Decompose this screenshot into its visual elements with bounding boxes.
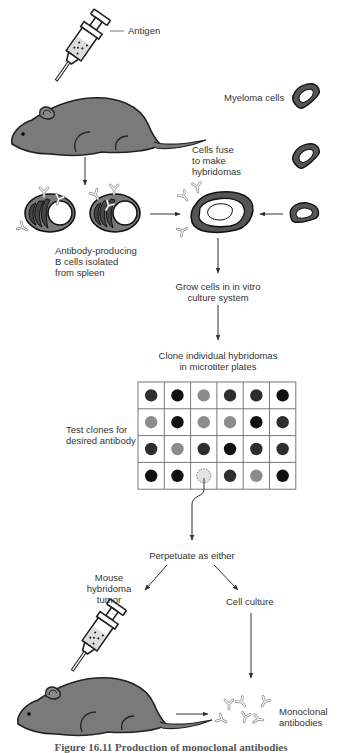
- myeloma-cell-icon: [286, 195, 322, 231]
- well: [276, 416, 288, 428]
- well: [224, 443, 236, 455]
- well: [145, 470, 157, 482]
- well: [250, 416, 262, 428]
- well: [198, 389, 210, 401]
- syringe-icon: [47, 8, 111, 86]
- perpetuate-label: Perpetuate as either: [140, 550, 244, 561]
- myeloma-cell-icon: [291, 81, 320, 111]
- well: [276, 389, 288, 401]
- monoclonal-antibodies-icon: [216, 696, 270, 725]
- well: [171, 470, 183, 482]
- arrow-down-left: [145, 565, 167, 590]
- arrow-down-right: [214, 565, 238, 590]
- well: [198, 416, 210, 428]
- myeloma-label: Myeloma cells: [224, 92, 284, 103]
- well: [250, 389, 262, 401]
- well: [171, 443, 183, 455]
- syringe-icon: [63, 598, 127, 676]
- microtiter-plate: [138, 382, 296, 489]
- well: [224, 470, 236, 482]
- well: [171, 416, 183, 428]
- well: [224, 389, 236, 401]
- cell-culture-label: Cell culture: [226, 596, 274, 607]
- grow-label: Grow cells in in vitro culture system: [168, 281, 268, 303]
- well: [250, 443, 262, 455]
- well: [145, 443, 157, 455]
- well: [224, 416, 236, 428]
- fuse-label: Cells fuse to make hybridomas: [192, 144, 241, 177]
- well: [145, 389, 157, 401]
- well: [250, 470, 262, 482]
- myeloma-cell-icon: [291, 141, 320, 171]
- clone-label: Clone individual hybridomas in microtite…: [148, 350, 288, 372]
- well: [171, 389, 183, 401]
- b-cells-label: Antibody-producing B cells isolated from…: [55, 245, 137, 278]
- antigen-label: Antigen: [128, 25, 160, 36]
- b-cell-icon: [25, 194, 75, 232]
- well: [198, 443, 210, 455]
- well: [276, 443, 288, 455]
- figure-caption: Figure 16.11 Production of monoclonal an…: [0, 741, 342, 753]
- monoclonal-label: Monoclonal antibodies: [279, 706, 328, 728]
- mouse-icon: [18, 678, 212, 736]
- well: [145, 416, 157, 428]
- mouse-icon: [12, 98, 206, 156]
- well: [276, 470, 288, 482]
- tumor-label: Mouse hybridoma tumor: [84, 572, 134, 605]
- hybridoma-icon: [177, 182, 253, 236]
- test-label: Test clones for desired antibody: [66, 424, 136, 446]
